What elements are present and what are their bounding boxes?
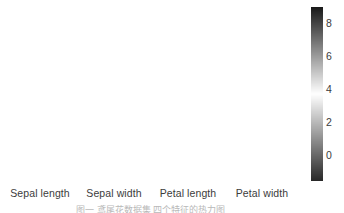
x-tick-label-sepal-length: Sepal length — [3, 186, 77, 201]
x-tick-label-petal-width: Petal width — [225, 186, 299, 201]
colorbar-gradient — [311, 7, 323, 181]
colorbar-tick-label-6: 6 — [326, 51, 332, 62]
colorbar-tick-label-0: 0 — [326, 150, 332, 161]
colorbar-tick-label-8: 8 — [326, 18, 332, 29]
colorbar-tick-label-2: 2 — [326, 117, 332, 128]
x-axis-tick-labels: Sepal length Sepal width Petal length Pe… — [3, 186, 299, 201]
heatmap-plot-area — [3, 3, 299, 185]
x-tick-label-sepal-width: Sepal width — [77, 186, 151, 201]
colorbar-tick-label-4: 4 — [326, 84, 332, 95]
heatmap-figure: Sepal length Sepal width Petal length Pe… — [0, 0, 344, 213]
x-tick-label-petal-length: Petal length — [151, 186, 225, 201]
colorbar-tick-labels: 8 6 4 2 0 — [326, 0, 344, 213]
figure-caption: 图一 鸢尾花数据集 四个特征的热力图 — [3, 204, 299, 213]
colorbar — [311, 7, 323, 181]
